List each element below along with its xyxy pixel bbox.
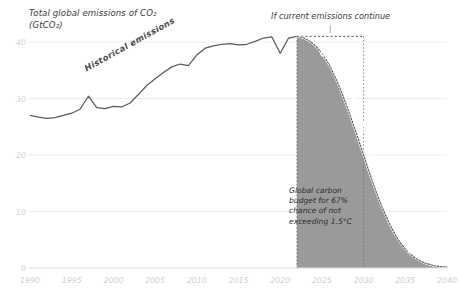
x-tick-1990: 1990 [20,276,40,285]
x-tick-2025: 2025 [312,276,332,285]
x-tick-2015: 2015 [229,276,249,285]
x-tick-2040: 2040 [437,276,457,285]
x-tick-2010: 2010 [187,276,207,285]
y-tick-0: 0 [8,264,26,273]
x-tick-2035: 2035 [395,276,415,285]
emissions-chart: Global pathway for a ‘likely chance’ of … [0,0,459,304]
x-tick-2005: 2005 [145,276,165,285]
y-tick-20: 20 [8,151,26,160]
historical-emissions-line [30,36,297,118]
scenario-annotation: If current emissions continue [271,11,390,21]
carbon-budget-annotation: Global carbon budget for 67% chance of n… [289,186,374,227]
x-tick-2000: 2000 [103,276,123,285]
chart-title: Total global emissions of CO₂ (GtCO₂) [29,8,157,31]
y-tick-40: 40 [8,38,26,47]
chart-canvas: Global pathway for a ‘likely chance’ of … [0,0,459,304]
x-tick-2020: 2020 [270,276,290,285]
y-tick-10: 10 [8,207,26,216]
x-tick-1995: 1995 [62,276,82,285]
x-tick-2030: 2030 [354,276,374,285]
y-tick-30: 30 [8,94,26,103]
